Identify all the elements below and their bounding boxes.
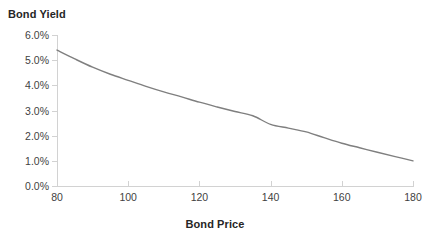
series-layer xyxy=(0,0,430,242)
bond-yield-chart: Bond Yield 0.0%1.0%2.0%3.0%4.0%5.0%6.0% … xyxy=(0,0,430,242)
x-axis-title: Bond Price xyxy=(0,218,430,230)
bond-yield-line xyxy=(57,50,413,161)
